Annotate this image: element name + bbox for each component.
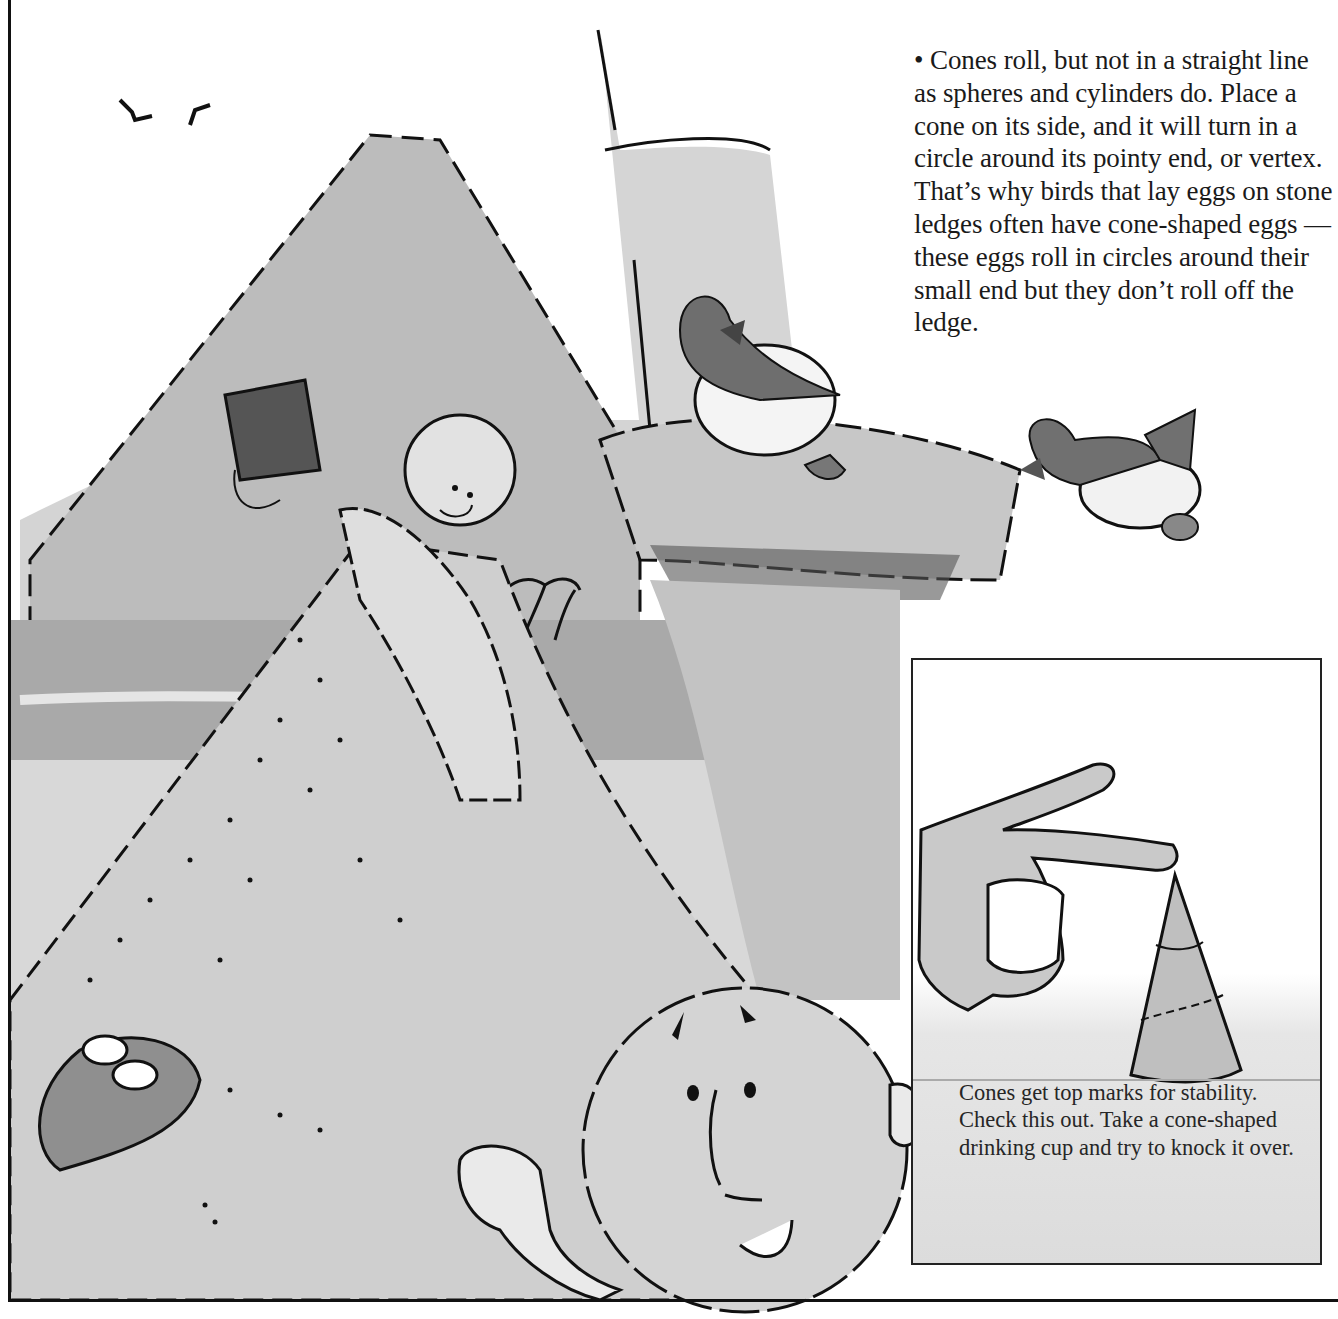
flicking-hand-icon bbox=[919, 764, 1177, 1010]
inset-illustration bbox=[913, 660, 1320, 1263]
paper-cone-icon bbox=[1131, 875, 1241, 1082]
inset-panel bbox=[911, 658, 1322, 1265]
main-paragraph: • Cones roll, but not in a straight line… bbox=[914, 44, 1334, 339]
inset-caption: Cones get top marks for stability. Check… bbox=[959, 1079, 1309, 1161]
